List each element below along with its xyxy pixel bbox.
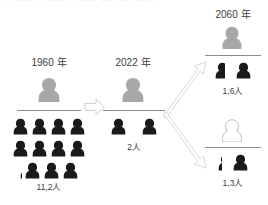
divider-2060-upper <box>205 55 261 56</box>
gray-person-icon-2022 <box>120 76 146 102</box>
column-2060-upper: 2060 年 1,6人 <box>200 0 268 105</box>
person-icon <box>12 116 29 136</box>
count-label-1960: 11,2人 <box>14 182 84 192</box>
people-block-1960 <box>0 116 100 178</box>
divider-2022 <box>103 110 165 111</box>
person-icon <box>50 138 67 158</box>
person-icon <box>110 116 127 136</box>
outline-person-icon-2060-lower <box>220 118 244 142</box>
person-icon <box>31 116 48 136</box>
divider-2060-lower <box>205 147 261 148</box>
person-icon <box>12 138 29 158</box>
year-label-2022: 2022 年 <box>103 57 163 68</box>
people-block-2022 <box>96 116 170 140</box>
divider-1960 <box>17 110 81 111</box>
person-icon <box>24 160 41 180</box>
column-2022: 2022 年 2人 <box>96 0 170 205</box>
person-icon <box>69 116 86 136</box>
gray-person-icon-2060-upper <box>220 25 244 49</box>
person-icon <box>232 152 249 172</box>
person-icon <box>31 138 48 158</box>
person-icon-partial <box>19 160 22 180</box>
person-icon <box>235 60 252 80</box>
person-icon <box>141 116 158 136</box>
people-block-2060-lower <box>200 152 268 176</box>
year-label-1960: 1960 年 <box>14 57 84 68</box>
column-2060-lower: 1,3人 <box>200 100 268 205</box>
person-icon <box>50 116 67 136</box>
count-label-2022: 2人 <box>103 142 165 152</box>
person-icon <box>43 160 60 180</box>
person-icon <box>69 138 86 158</box>
person-icon-partial <box>217 152 222 172</box>
year-label-2060: 2060 年 <box>204 9 262 20</box>
gray-person-icon-1960 <box>36 76 62 102</box>
infographic-canvas: ·· ···· ·· ···· ·· ···· ···· ··· ···· 19… <box>0 0 268 205</box>
people-block-2060-upper <box>200 60 268 84</box>
person-icon-partial <box>214 60 224 80</box>
count-label-2060-lower: 1,3人 <box>204 178 262 188</box>
person-icon <box>62 160 79 180</box>
count-label-2060-upper: 1,6人 <box>204 86 262 96</box>
